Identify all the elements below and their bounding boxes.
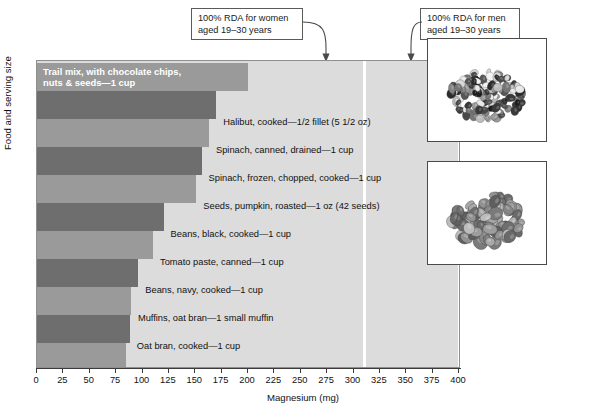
x-tick-0 — [36, 368, 37, 373]
x-tick-label-25: 25 — [57, 375, 67, 385]
bar-label-5: Beans, black, cooked—1 cup — [171, 229, 291, 240]
x-tick-label-125: 125 — [160, 375, 176, 385]
trail-mix-photo — [427, 38, 547, 142]
bar-8 — [37, 287, 131, 315]
bar-4 — [37, 175, 196, 203]
callout-rda-women: 100% RDA for women aged 19–30 years — [191, 8, 303, 40]
x-tick-125 — [168, 368, 169, 373]
x-axis-title: Magnesium (mg) — [0, 392, 606, 403]
x-tick-label-100: 100 — [134, 375, 150, 385]
x-tick-75 — [115, 368, 116, 373]
magnesium-bar-chart: 100% RDA for women aged 19–30 years 100%… — [0, 0, 606, 415]
bar-1 — [37, 91, 216, 119]
x-tick-label-225: 225 — [266, 375, 282, 385]
x-tick-label-350: 350 — [397, 375, 413, 385]
callout-women-arrow-icon — [300, 18, 340, 64]
bar-7 — [37, 259, 138, 287]
x-tick-label-250: 250 — [292, 375, 308, 385]
bar-label-4: Seeds, pumpkin, roasted—1 oz (42 seeds) — [203, 201, 379, 212]
y-axis-title: Food and serving size — [2, 56, 13, 150]
bar-label-1: Halibut, cooked—1/2 fillet (5 1/2 oz) — [223, 117, 370, 128]
bar-label-7: Beans, navy, cooked—1 cup — [145, 285, 263, 296]
x-tick-100 — [142, 368, 143, 373]
x-tick-50 — [89, 368, 90, 373]
x-tick-350 — [405, 368, 406, 373]
x-tick-label-275: 275 — [318, 375, 334, 385]
bar-label-2: Spinach, canned, drained—1 cup — [216, 145, 353, 156]
bar-9 — [37, 315, 130, 343]
rda-reference-line-women — [363, 61, 366, 367]
x-tick-label-0: 0 — [33, 375, 38, 385]
x-tick-275 — [326, 368, 327, 373]
bar-2 — [37, 119, 209, 147]
x-tick-label-200: 200 — [239, 375, 255, 385]
x-tick-400 — [458, 368, 459, 373]
x-tick-label-300: 300 — [345, 375, 361, 385]
x-tick-325 — [379, 368, 380, 373]
bar-label-9: Oat bran, cooked—1 cup — [137, 341, 240, 352]
x-tick-300 — [353, 368, 354, 373]
bar-5 — [37, 203, 164, 231]
x-tick-label-150: 150 — [186, 375, 202, 385]
x-tick-200 — [247, 368, 248, 373]
x-tick-label-50: 50 — [84, 375, 94, 385]
bar-label-3: Spinach, frozen, chopped, cooked—1 cup — [209, 173, 382, 184]
x-tick-label-75: 75 — [110, 375, 120, 385]
x-tick-label-325: 325 — [371, 375, 387, 385]
x-tick-label-175: 175 — [213, 375, 229, 385]
x-tick-225 — [273, 368, 274, 373]
x-tick-375 — [432, 368, 433, 373]
x-tick-150 — [194, 368, 195, 373]
plot-area: Trail mix, with chocolate chips, nuts & … — [36, 60, 460, 368]
x-tick-label-400: 400 — [450, 375, 466, 385]
x-tick-175 — [221, 368, 222, 373]
x-tick-25 — [62, 368, 63, 373]
bar-6 — [37, 231, 153, 259]
bar-label-0: Trail mix, with chocolate chips, nuts & … — [43, 66, 181, 89]
x-tick-250 — [300, 368, 301, 373]
bar-label-6: Tomato paste, canned—1 cup — [160, 257, 284, 268]
pumpkin-seeds-photo — [427, 161, 547, 265]
bar-label-8: Muffins, oat bran—1 small muffin — [138, 313, 274, 324]
bar-10 — [37, 343, 126, 368]
x-tick-label-375: 375 — [424, 375, 440, 385]
callout-rda-men: 100% RDA for men aged 19–30 years — [420, 8, 520, 40]
bar-3 — [37, 147, 202, 175]
x-axis-line — [36, 368, 461, 369]
